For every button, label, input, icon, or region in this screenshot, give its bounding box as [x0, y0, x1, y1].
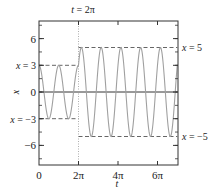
axes: 02π4π6π6x = 30x = −3−6: [9, 21, 178, 181]
y-axis-label: x: [10, 89, 21, 95]
x-tick-label: 0: [36, 169, 42, 181]
plot-area: [39, 21, 177, 165]
x-tick-label: 2π: [73, 169, 85, 181]
plot-frame: [39, 21, 178, 165]
label-x-eq-neg5: x = −5: [181, 131, 208, 142]
y-tick-label: 6: [31, 33, 37, 45]
y-tick-label: x = −3: [9, 114, 36, 125]
x-tick-label: 6π: [152, 169, 164, 181]
y-tick-label: x = 3: [15, 60, 36, 71]
y-tick-label: −6: [24, 139, 36, 151]
x-axis-label: t: [116, 178, 119, 189]
vline-label: t = 2π: [71, 4, 94, 15]
chart: 02π4π6π6x = 30x = −3−6 t = 2π t x x = 5 …: [0, 0, 217, 194]
y-tick-label: 0: [31, 86, 37, 98]
label-x-eq-5: x = 5: [181, 42, 202, 53]
